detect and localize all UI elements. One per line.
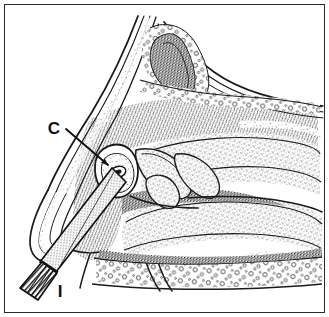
label-i: I [58, 282, 63, 301]
illustration-content [20, 16, 324, 300]
figure-root: C I [0, 0, 329, 317]
label-c: C [48, 119, 60, 138]
anatomical-illustration: C I [0, 0, 329, 317]
